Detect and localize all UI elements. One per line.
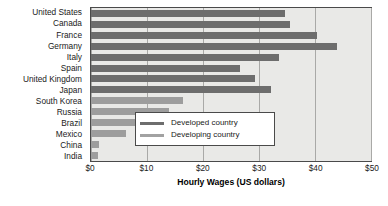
- x-axis-title: Hourly Wages (US dollars): [90, 177, 372, 187]
- legend: Developed countryDeveloping country: [135, 112, 275, 146]
- bar-italy: [91, 54, 279, 61]
- legend-item: Developing country: [140, 129, 269, 141]
- bar-row: [91, 41, 371, 52]
- x-axis-tick-label: $50: [365, 164, 379, 172]
- x-axis-tick-label: $20: [196, 164, 210, 172]
- bar-spain: [91, 65, 240, 72]
- x-axis-tick-label: $0: [85, 164, 94, 172]
- bar-japan: [91, 86, 271, 93]
- bar-south-korea: [91, 97, 183, 104]
- category-label: United Kingdom: [0, 73, 86, 84]
- category-label: Mexico: [0, 129, 86, 140]
- legend-swatch-icon: [140, 122, 164, 125]
- category-label: Brazil: [0, 118, 86, 129]
- bar-row: [91, 8, 371, 19]
- bar-mexico: [91, 130, 126, 137]
- x-axis-tick-label: $40: [309, 164, 323, 172]
- category-label: Canada: [0, 18, 86, 29]
- bar-row: [91, 84, 371, 95]
- bar-india: [91, 152, 98, 159]
- legend-label: Developing country: [171, 131, 239, 139]
- category-label: China: [0, 140, 86, 151]
- category-label: France: [0, 29, 86, 40]
- category-label: Japan: [0, 85, 86, 96]
- bar-row: [91, 52, 371, 63]
- bar-canada: [91, 21, 290, 28]
- bar-row: [91, 95, 371, 106]
- category-label: Germany: [0, 40, 86, 51]
- bar-chart: United StatesCanadaFranceGermanyItalySpa…: [0, 0, 388, 206]
- bar-germany: [91, 43, 337, 50]
- category-label: United States: [0, 7, 86, 18]
- bar-row: [91, 74, 371, 85]
- bar-united-states: [91, 10, 285, 17]
- legend-label: Developed country: [171, 119, 238, 127]
- category-label: Italy: [0, 51, 86, 62]
- category-label: Russia: [0, 107, 86, 118]
- bar-row: [91, 63, 371, 74]
- legend-item: Developed country: [140, 117, 269, 129]
- bar-row: [91, 150, 371, 161]
- x-axis-tick-label: $10: [139, 164, 153, 172]
- category-label: South Korea: [0, 96, 86, 107]
- category-label: Spain: [0, 62, 86, 73]
- bar-china: [91, 141, 99, 148]
- bar-row: [91, 30, 371, 41]
- bar-france: [91, 32, 317, 39]
- category-label: India: [0, 151, 86, 162]
- category-axis: United StatesCanadaFranceGermanyItalySpa…: [0, 7, 86, 162]
- gridline: [371, 8, 372, 161]
- bar-row: [91, 19, 371, 30]
- x-axis-tick-label: $30: [252, 164, 266, 172]
- x-axis: $0$10$20$30$40$50: [90, 162, 372, 176]
- bar-united-kingdom: [91, 75, 255, 82]
- legend-swatch-icon: [140, 134, 164, 137]
